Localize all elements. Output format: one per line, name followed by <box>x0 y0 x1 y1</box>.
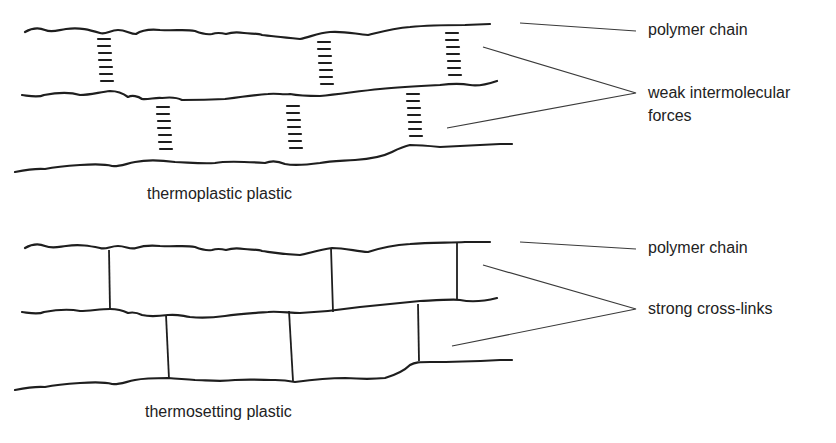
weak-force-5 <box>287 106 302 148</box>
label-weak-intermolecular-line1: weak intermolecular <box>648 81 790 105</box>
leader-weak-forces <box>447 47 636 128</box>
polymer-chain-top-1 <box>25 24 490 39</box>
caption-thermosetting: thermosetting plastic <box>145 400 292 424</box>
weak-force-4 <box>157 107 172 149</box>
polymer-chain-bottom-3 <box>15 360 512 390</box>
cross-link-5 <box>289 311 293 381</box>
polymer-chain-top-2 <box>22 81 497 100</box>
cross-link-6 <box>418 304 419 361</box>
label-strong-cross-links: strong cross-links <box>648 297 772 321</box>
polymer-chain-bottom-1 <box>25 242 490 255</box>
caption-thermoplastic: thermoplastic plastic <box>147 182 292 206</box>
thermosetting-panel <box>15 242 636 390</box>
cross-link-4 <box>166 315 169 379</box>
cross-link-1 <box>109 250 110 309</box>
label-polymer-chain-bottom: polymer chain <box>648 236 748 260</box>
polymer-chain-top-3 <box>15 144 512 172</box>
weak-force-2 <box>318 42 333 84</box>
thermoplastic-panel <box>15 23 636 172</box>
leader-cross-links <box>452 265 636 346</box>
weak-force-3 <box>446 33 461 75</box>
polymer-structure-diagram <box>0 0 836 443</box>
weak-force-6 <box>407 94 422 136</box>
leader-polymer-chain-bottom <box>520 242 636 249</box>
weak-force-1 <box>98 39 113 81</box>
polymer-chain-bottom-2 <box>22 298 497 318</box>
cross-link-2 <box>331 248 333 312</box>
label-weak-intermolecular-line2: forces <box>648 104 692 128</box>
label-polymer-chain-top: polymer chain <box>648 18 748 42</box>
leader-polymer-chain-top <box>520 23 636 31</box>
